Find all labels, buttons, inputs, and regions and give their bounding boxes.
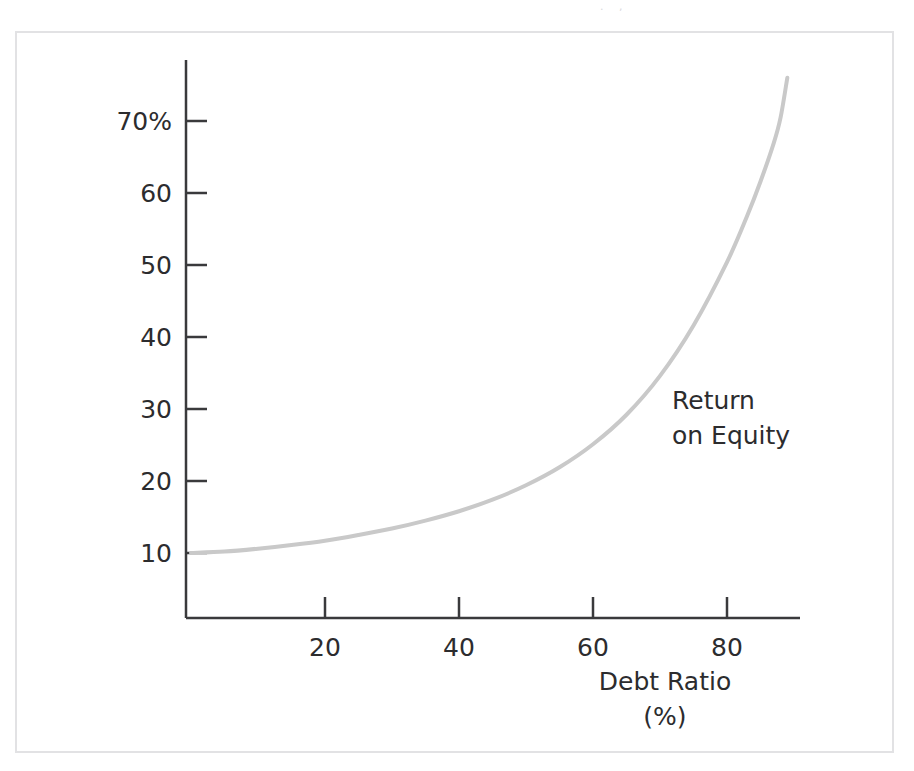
- figure-root: . , 10203040506070% 20406080 Return on E…: [0, 0, 914, 771]
- x-axis-unit-label: (%): [643, 702, 686, 731]
- y-axis-tick-label: 60: [140, 179, 172, 208]
- x-axis-tick-label: 20: [309, 633, 341, 662]
- y-axis-tick-label: 30: [140, 395, 172, 424]
- axes-group: [186, 60, 800, 618]
- y-axis-tick-label: 40: [140, 323, 172, 352]
- x-axis-tick-label: 60: [577, 633, 609, 662]
- x-axis-tick-label: 80: [711, 633, 743, 662]
- series-line-return-on-equity: [191, 78, 787, 553]
- y-axis-ticks: 10203040506070%: [116, 107, 207, 568]
- x-axis-ticks: 20406080: [309, 597, 743, 662]
- x-axis-title: Debt Ratio: [599, 667, 731, 696]
- x-axis-tick-label: 40: [443, 633, 475, 662]
- y-axis-tick-label: 70%: [116, 107, 172, 136]
- chart-plot: 10203040506070% 20406080 Return on Equit…: [0, 0, 914, 771]
- series-annotation-line-2: on Equity: [672, 421, 790, 450]
- y-axis-tick-label: 20: [140, 467, 172, 496]
- y-axis-tick-label: 10: [140, 539, 172, 568]
- series-annotation-line-1: Return: [672, 386, 755, 415]
- y-axis-tick-label: 50: [140, 251, 172, 280]
